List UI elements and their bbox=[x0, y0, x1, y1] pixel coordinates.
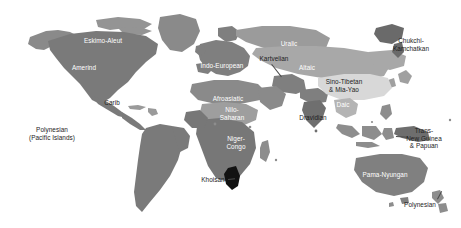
region-pacific-dot-1 bbox=[214, 123, 217, 126]
language-families-world-map: Eskimo-Aleut Amerind Carib Amerind Polyn… bbox=[0, 0, 461, 228]
region-pacific-dot-4 bbox=[275, 159, 277, 161]
region-pacific-dot-6 bbox=[371, 121, 373, 123]
region-afroasiatic bbox=[190, 80, 266, 104]
world-map-graphic bbox=[0, 0, 461, 228]
region-pacific-dot-5 bbox=[449, 119, 451, 121]
region-pacific-dot-3 bbox=[315, 130, 318, 133]
region-pacific-dot-2 bbox=[249, 126, 252, 129]
